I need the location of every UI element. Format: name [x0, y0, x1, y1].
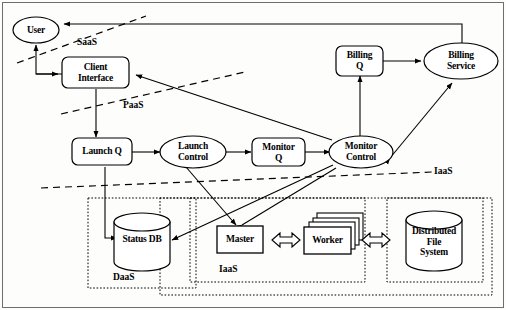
node-billing-q-shape[interactable] — [336, 46, 383, 76]
node-launch-control-shape[interactable] — [160, 136, 226, 168]
diagram-canvas: User Client Interface Billing Q Billing … — [0, 0, 506, 310]
node-monitor-control-shape[interactable] — [329, 136, 393, 168]
edge-monitor-control-billing-service — [390, 83, 452, 158]
node-launch-q-shape[interactable] — [72, 138, 132, 165]
node-worker-shape[interactable] — [304, 213, 363, 254]
node-master-shape[interactable] — [217, 226, 263, 253]
diagram-svg — [0, 0, 506, 310]
zone-daas-label: DaaS — [113, 272, 135, 282]
edge-worker-dfs-double-arrow — [362, 233, 390, 247]
node-user-shape[interactable] — [13, 17, 59, 43]
edge-client-interface-to-user — [36, 45, 63, 74]
edge-launch-control-to-master — [186, 167, 236, 225]
edge-monitor-control-to-client-interface — [136, 75, 332, 140]
zone-paas-label: PaaS — [123, 100, 144, 110]
zone-saas-label: SaaS — [77, 37, 97, 47]
edge-billing-service-to-user — [64, 24, 462, 45]
edge-master-worker-double-arrow — [272, 233, 300, 247]
node-billing-service-shape[interactable] — [424, 43, 498, 79]
iaas-boundary-line — [41, 172, 432, 188]
node-monitor-q-shape[interactable] — [252, 138, 305, 166]
zone-iaas-group-label: IaaS — [219, 264, 237, 274]
node-client-interface-shape[interactable] — [62, 57, 129, 88]
node-distributed-file-system-shape[interactable] — [406, 211, 462, 271]
zone-iaas-boundary-label: IaaS — [434, 166, 452, 176]
node-status-db-shape[interactable] — [114, 213, 170, 271]
